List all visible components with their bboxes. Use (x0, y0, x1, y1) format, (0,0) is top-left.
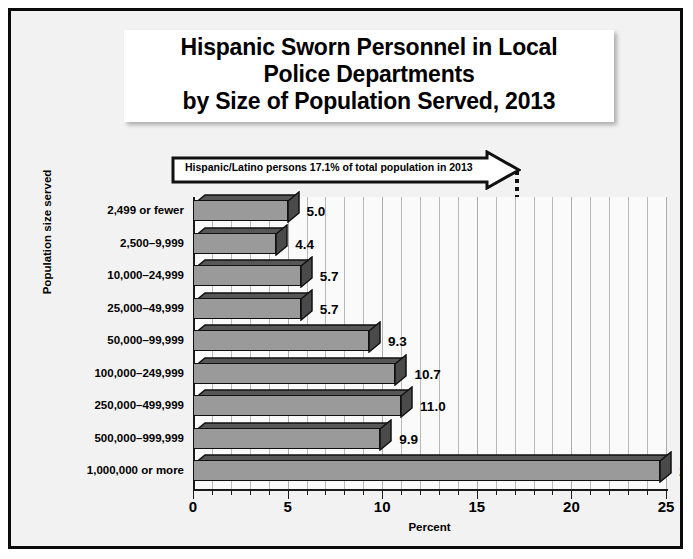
category-label: 250,000–499,999 (94, 399, 184, 411)
bar-side-face (379, 419, 392, 451)
x-axis-tick (628, 489, 629, 495)
gridline (477, 197, 478, 489)
x-axis-tick-label: 15 (457, 498, 497, 515)
slide-frame: Hispanic Sworn Personnel in Local Police… (8, 8, 683, 549)
title-line-3: by Size of Population Served, 2013 (134, 88, 604, 115)
bar-front-face (193, 395, 401, 416)
bar-value-label: 5.7 (320, 269, 339, 284)
bar-front-face (193, 363, 395, 384)
bar-front-face (193, 460, 660, 481)
bar-side-face (659, 451, 672, 483)
x-axis-tick (647, 489, 648, 495)
category-label: 50,000–99,999 (107, 334, 184, 346)
bar-value-label: 24.7 (679, 464, 683, 479)
gridline (534, 197, 535, 489)
bar-front-face (193, 265, 301, 286)
x-axis-tick-label: 0 (173, 498, 213, 515)
chart-title: Hispanic Sworn Personnel in Local Police… (124, 30, 614, 122)
x-axis-tick-label: 10 (362, 498, 402, 515)
gridline (647, 197, 648, 489)
gridline (515, 197, 516, 489)
x-axis-tick-label: 25 (646, 498, 683, 515)
gridline (609, 197, 610, 489)
bar-side-face (300, 256, 313, 288)
x-axis-tick (269, 489, 270, 495)
gridline (439, 197, 440, 489)
x-axis-tick (590, 489, 591, 495)
bar-front-face (193, 330, 369, 351)
x-axis-tick (325, 489, 326, 495)
x-axis-tick (609, 489, 610, 495)
x-axis-tick-label: 20 (551, 498, 591, 515)
title-line-2: Police Departments (134, 61, 604, 88)
bar-front-face (193, 233, 276, 254)
bar-side-face (300, 289, 313, 321)
x-axis-tick (344, 489, 345, 495)
plot-area: 5.04.45.75.79.310.711.09.924.7 (193, 197, 666, 489)
bar-front-face (193, 428, 380, 449)
bar-side-face (287, 191, 300, 223)
bar-value-label: 9.3 (388, 334, 407, 349)
gridline (590, 197, 591, 489)
bar-side-face (275, 224, 288, 256)
x-axis-tick (496, 489, 497, 495)
bar-value-label: 5.0 (307, 204, 326, 219)
x-axis-tick (552, 489, 553, 495)
bar-side-face (394, 354, 407, 386)
x-axis-tick (307, 489, 308, 495)
x-axis-tick (250, 489, 251, 495)
bar-value-label: 9.9 (399, 432, 418, 447)
gridline (420, 197, 421, 489)
x-axis-tick-label: 5 (268, 498, 308, 515)
annotation-arrow-banner: Hispanic/Latino persons 17.1% of total p… (171, 150, 521, 190)
category-label: 25,000–49,999 (107, 302, 184, 314)
x-axis-tick (515, 489, 516, 495)
x-axis-tick (212, 489, 213, 495)
x-axis-line (193, 489, 668, 491)
category-label-group: 2,499 or fewer2,500–9,99910,000–24,99925… (51, 197, 184, 489)
bar-front-face (193, 298, 301, 319)
x-axis-tick (401, 489, 402, 495)
gridline (496, 197, 497, 489)
gridline (628, 197, 629, 489)
category-label: 100,000–249,999 (94, 367, 184, 379)
x-axis-tick (534, 489, 535, 495)
x-axis-tick (420, 489, 421, 495)
bar-front-face (193, 200, 288, 221)
x-axis-tick (458, 489, 459, 495)
gridline (458, 197, 459, 489)
annotation-text: Hispanic/Latino persons 17.1% of total p… (185, 161, 485, 173)
bar-side-face (368, 321, 381, 353)
bar-value-label: 11.0 (420, 399, 446, 414)
bar-value-label: 5.7 (320, 302, 339, 317)
category-label: 1,000,000 or more (87, 464, 184, 476)
category-label: 2,499 or fewer (107, 204, 184, 216)
gridline (552, 197, 553, 489)
title-line-1: Hispanic Sworn Personnel in Local (134, 34, 604, 61)
gridline (571, 197, 572, 489)
x-axis-tick (231, 489, 232, 495)
category-label: 10,000–24,999 (107, 269, 184, 281)
gridline (666, 197, 667, 489)
x-axis-tick (363, 489, 364, 495)
bar-value-label: 10.7 (414, 367, 440, 382)
x-axis-title: Percent (193, 521, 666, 533)
bar-value-label: 4.4 (295, 237, 314, 252)
bar-side-face (400, 386, 413, 418)
y-axis-title: Population size served (41, 167, 53, 297)
x-axis-tick (439, 489, 440, 495)
category-label: 2,500–9,999 (120, 237, 184, 249)
category-label: 500,000–999,999 (94, 432, 184, 444)
